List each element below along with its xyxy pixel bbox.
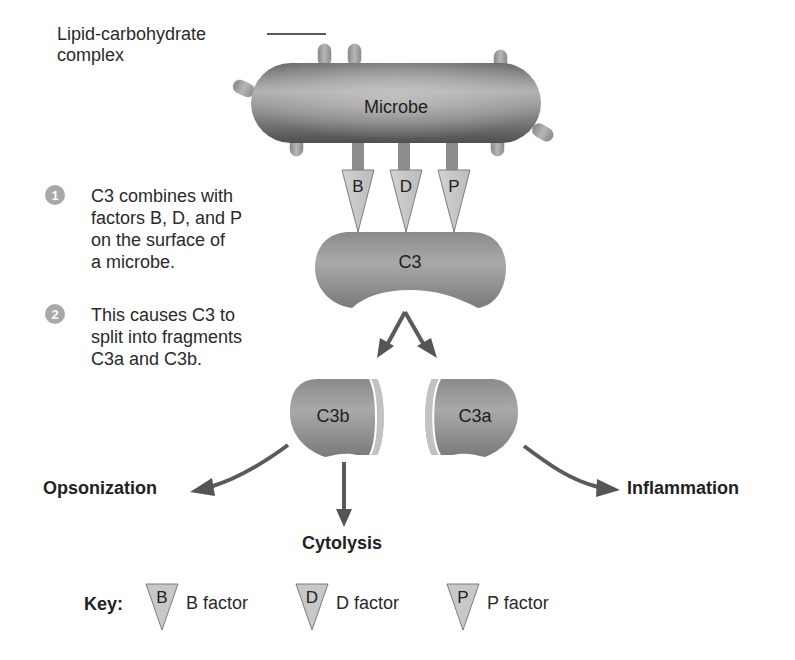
step-2: 2 This causes C3 to split into fragments…	[45, 304, 242, 369]
c3a-label: C3a	[458, 406, 492, 426]
key-b-label: B factor	[186, 593, 248, 613]
factor-d: D	[390, 170, 422, 232]
key-d-letter: D	[306, 588, 318, 607]
projection-top-1	[318, 44, 331, 66]
key-d-label: D factor	[336, 593, 399, 613]
microbe: Microbe	[251, 63, 541, 143]
step-2-line-2: split into fragments	[91, 327, 242, 347]
lipid-label-line2: complex	[57, 45, 124, 65]
key-item-b: B B factor	[146, 584, 248, 630]
step-1-line-1: C3 combines with	[91, 186, 233, 206]
c3b-label: C3b	[316, 406, 349, 426]
factor-p-letter: P	[448, 177, 459, 196]
complement-activation-diagram: Lipid-carbohydrate complex Microbe B D	[0, 0, 795, 660]
step-1-line-4: a microbe.	[91, 252, 175, 272]
arrow-inflammation-icon	[596, 479, 620, 497]
factor-d-letter: D	[400, 177, 412, 196]
factor-b-letter: B	[352, 177, 363, 196]
factor-triangles: B D P	[342, 170, 470, 232]
step-1-number: 1	[51, 188, 58, 203]
step-2-line-1: This causes C3 to	[91, 305, 235, 325]
step-1-line-2: factors B, D, and P	[91, 208, 242, 228]
key-item-d: D D factor	[296, 584, 399, 630]
outcome-opsonization: Opsonization	[43, 478, 157, 498]
outcome-cytolysis: Cytolysis	[302, 533, 382, 553]
key-title: Key:	[84, 594, 123, 614]
key-b-letter: B	[156, 588, 167, 607]
key-p-label: P factor	[487, 593, 549, 613]
lipid-carbohydrate-label: Lipid-carbohydrate complex	[57, 24, 326, 65]
arrow-cytolysis-icon	[336, 509, 352, 527]
c3-protein: C3	[315, 232, 506, 308]
key-p-letter: P	[457, 588, 468, 607]
c3b-fragment: C3b	[290, 379, 384, 457]
arrow-opsonization-icon	[190, 478, 215, 496]
key-legend: Key: B B factor D D factor P P factor	[84, 584, 549, 630]
step-1-line-3: on the surface of	[91, 230, 226, 250]
step-1: 1 C3 combines with factors B, D, and P o…	[45, 185, 242, 272]
microbe-label: Microbe	[364, 97, 428, 117]
c3-label: C3	[398, 252, 421, 272]
outcome-arrows	[190, 445, 620, 527]
lipid-label-line1: Lipid-carbohydrate	[57, 24, 206, 44]
key-item-p: P P factor	[447, 584, 549, 630]
factor-p: P	[438, 170, 470, 232]
outcome-inflammation: Inflammation	[627, 478, 739, 498]
c3a-fragment: C3a	[425, 379, 518, 457]
split-arrows	[377, 312, 437, 358]
projection-top-2	[348, 44, 361, 66]
step-2-number: 2	[51, 307, 58, 322]
factor-b: B	[342, 170, 374, 232]
step-2-line-3: C3a and C3b.	[91, 349, 202, 369]
